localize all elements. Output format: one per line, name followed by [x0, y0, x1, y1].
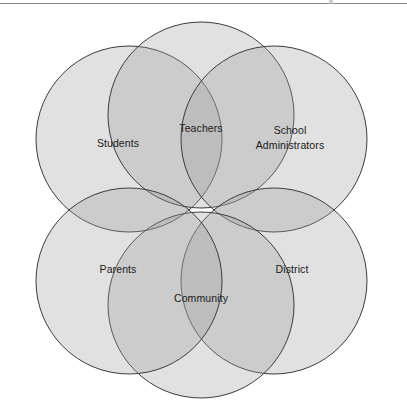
venn-label-community-line-1: Community: [174, 291, 228, 306]
venn-label-district-line-1: District: [276, 262, 309, 277]
venn-label-teachers: Teachers: [179, 121, 222, 136]
venn-circles-svg: [0, 0, 407, 420]
venn-label-school-administrators-line-2: Administrators: [256, 138, 325, 153]
venn-label-school-administrators-line-1: School: [256, 123, 325, 138]
venn-label-teachers-line-1: Teachers: [179, 121, 222, 136]
venn-label-community: Community: [174, 291, 228, 306]
venn-label-school-administrators: School Administrators: [256, 123, 325, 153]
venn-circle-parents: [36, 188, 222, 374]
venn-label-students: Students: [97, 136, 139, 151]
venn-diagram-figure: Students Teachers School Administrators …: [0, 0, 407, 420]
venn-label-students-line-1: Students: [97, 136, 139, 151]
venn-label-parents-line-1: Parents: [100, 262, 137, 277]
venn-label-district: District: [276, 262, 309, 277]
venn-label-parents: Parents: [100, 262, 137, 277]
